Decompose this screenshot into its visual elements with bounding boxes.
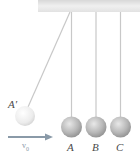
label-B: B [92, 142, 99, 153]
label-C: C [116, 142, 123, 153]
ball-B [86, 117, 107, 138]
label-A-prime: A′ [8, 99, 17, 110]
velocity-arrow-head [45, 134, 53, 141]
ball-A [61, 117, 82, 138]
pendulum-diagram: A′ A B C v0 [0, 0, 140, 155]
velocity-label: v0 [22, 142, 29, 152]
ceiling-bar [38, 0, 140, 12]
ball-A-prime [15, 106, 35, 126]
diagram-canvas [0, 0, 140, 155]
string-A-prime [28, 12, 70, 107]
ball-C [110, 117, 131, 138]
velocity-subscript: 0 [26, 146, 29, 152]
label-A: A [67, 142, 74, 153]
